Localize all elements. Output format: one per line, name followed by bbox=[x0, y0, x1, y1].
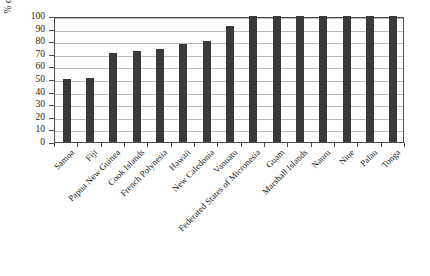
bar bbox=[249, 16, 257, 142]
x-tick-mark bbox=[171, 143, 172, 147]
x-axis-labels: SamoaFijiPapua New GuineaCook IslandsFre… bbox=[0, 148, 430, 276]
x-tick-mark bbox=[217, 143, 218, 147]
y-tick-label: 50 bbox=[36, 75, 46, 85]
y-tick-label: 60 bbox=[36, 63, 46, 73]
bar bbox=[133, 51, 141, 142]
bar bbox=[296, 16, 304, 142]
x-tick-mark bbox=[54, 143, 55, 147]
x-tick-mark bbox=[101, 143, 102, 147]
x-tick-mark bbox=[194, 143, 195, 147]
x-tick-label: Fiji bbox=[84, 148, 99, 163]
y-tick-label: 100 bbox=[31, 12, 45, 22]
x-tick-mark bbox=[334, 143, 335, 147]
x-tick-mark bbox=[147, 143, 148, 147]
y-tick-label: 30 bbox=[36, 100, 46, 110]
bar bbox=[109, 53, 117, 142]
bar bbox=[203, 41, 211, 142]
y-tick-label: 20 bbox=[36, 113, 46, 123]
bar bbox=[343, 16, 351, 142]
y-tick-label: 10 bbox=[36, 126, 46, 136]
x-tick-label: Nauru bbox=[310, 148, 332, 170]
bar bbox=[226, 26, 234, 142]
x-tick-label: Niue bbox=[337, 148, 356, 167]
x-tick-label: Tonga bbox=[381, 148, 403, 170]
x-tick-label: Samoa bbox=[52, 148, 76, 172]
y-tick-label: 40 bbox=[36, 88, 46, 98]
y-tick-label: 90 bbox=[36, 25, 46, 35]
y-axis-ticks: 0102030405060708090100 bbox=[0, 17, 54, 143]
bar bbox=[179, 44, 187, 142]
bar bbox=[86, 78, 94, 142]
x-tick-mark bbox=[357, 143, 358, 147]
bar bbox=[273, 16, 281, 142]
chart-figure: % of electricity generated with diesel p… bbox=[0, 0, 430, 276]
x-tick-mark bbox=[311, 143, 312, 147]
bar bbox=[63, 79, 71, 142]
bar bbox=[319, 16, 327, 142]
bar bbox=[389, 16, 397, 142]
x-tick-mark bbox=[381, 143, 382, 147]
x-tick-mark bbox=[287, 143, 288, 147]
y-tick-label: 70 bbox=[36, 50, 46, 60]
y-tick-label: 80 bbox=[36, 37, 46, 47]
x-tick-mark bbox=[404, 143, 405, 147]
x-tick-label: Palau bbox=[359, 148, 380, 169]
bar-series bbox=[55, 18, 403, 142]
x-tick-mark bbox=[124, 143, 125, 147]
x-tick-mark bbox=[77, 143, 78, 147]
bar bbox=[156, 49, 164, 142]
bar bbox=[366, 16, 374, 142]
x-tick-mark bbox=[264, 143, 265, 147]
y-tick-label: 0 bbox=[40, 138, 45, 148]
plot-area bbox=[54, 17, 404, 143]
x-tick-mark bbox=[241, 143, 242, 147]
